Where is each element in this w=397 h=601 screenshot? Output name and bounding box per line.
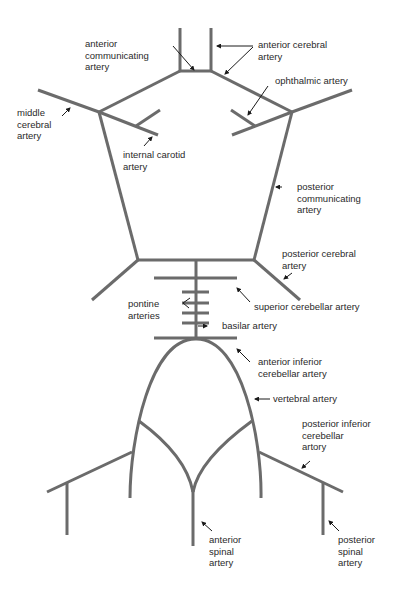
vertebral-arteries (130, 339, 261, 498)
label-anterior-spinal-artery: anterior spinal artery (209, 534, 241, 569)
label-posterior-inferior-cerebellar-artery: posterior inferior cerebellar artory (302, 418, 371, 453)
middle-cerebral-arteries (38, 90, 352, 112)
label-superior-cerebellar-artery: superior cerebellar artery (254, 301, 360, 313)
anterior-spinal-roots (139, 421, 252, 492)
internal-carotid-arteries (99, 110, 292, 135)
label-posterior-spinal-artery: posterior spinal artery (338, 534, 375, 569)
label-anterior-inferior-cerebellar-artery: anterior inferior cerebellar artery (258, 356, 327, 379)
label-internal-carotid-artery: internal carotid artery (123, 149, 185, 172)
label-middle-cerebral-artery: middle cerebral artery (17, 107, 51, 142)
label-posterior-cerebral-artery: posterior cerebral artery (282, 248, 356, 271)
label-basilar-artery: basilar artery (222, 320, 277, 332)
label-posterior-communicating-artery: posterior communicating artery (297, 181, 361, 216)
posterior-spinal-arteries (67, 482, 323, 535)
anterior-cerebral-arteries (180, 28, 211, 71)
label-anterior-communicating-artery: anterior communicating artery (85, 38, 149, 73)
label-ophthalmic-artery: ophthalmic artery (275, 75, 348, 87)
circle-upper-segments (99, 71, 292, 112)
label-anterior-cerebral-artery: anterior cerebral artery (258, 39, 327, 62)
label-pontine-arteries: pontine arteries (128, 298, 160, 321)
label-vertebral-artery: vertebral artery (273, 393, 337, 405)
posterior-communicating-arteries (99, 112, 292, 260)
